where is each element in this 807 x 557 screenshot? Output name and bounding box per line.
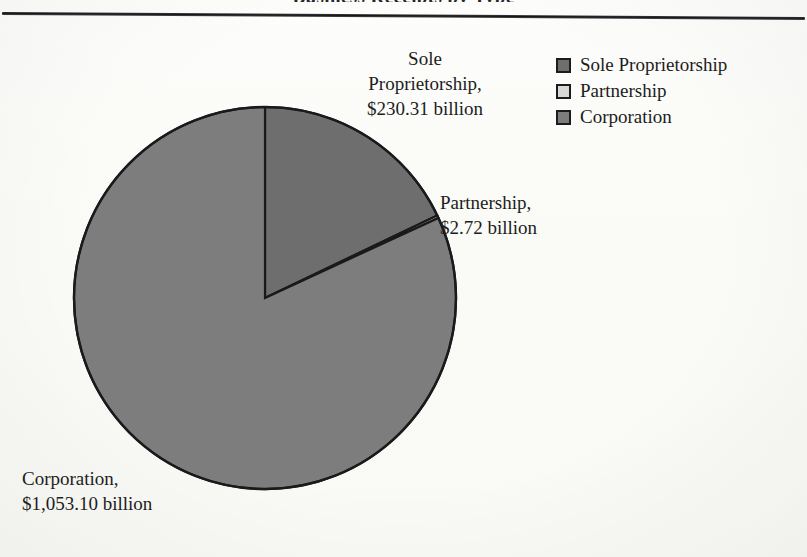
legend-label-sole-proprietorship: Sole Proprietorship — [580, 54, 727, 76]
legend-swatch-corporation — [556, 110, 571, 125]
legend-label-partnership: Partnership — [580, 80, 667, 102]
pie-chart — [72, 105, 458, 491]
pie-slice-group — [74, 107, 456, 489]
pie-chart-svg — [72, 105, 458, 491]
page-title-remnant: Business Receipts by Type — [0, 0, 807, 2]
chart-page: Business Receipts by Type Sole Proprieto… — [0, 0, 807, 557]
legend-item-sole-proprietorship: Sole Proprietorship — [556, 52, 727, 78]
legend-item-corporation: Corporation — [556, 104, 727, 130]
scan-speckle — [0, 531, 807, 551]
legend-swatch-partnership — [556, 84, 571, 99]
header-rule-divider — [2, 12, 805, 20]
slice-label-sole-proprietorship: Sole Proprietorship, $230.31 billion — [330, 46, 520, 121]
slice-label-partnership: Partnership, $2.72 billion — [440, 190, 620, 240]
legend-swatch-sole-proprietorship — [556, 58, 571, 73]
legend-label-corporation: Corporation — [580, 106, 672, 128]
chart-legend: Sole Proprietorship Partnership Corporat… — [556, 52, 727, 130]
legend-item-partnership: Partnership — [556, 78, 727, 104]
slice-label-corporation: Corporation, $1,053.10 billion — [22, 466, 252, 516]
